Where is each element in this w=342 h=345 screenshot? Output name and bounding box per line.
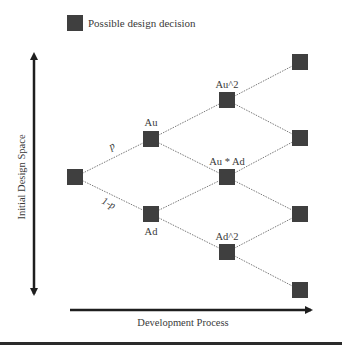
node-r1 bbox=[292, 54, 308, 70]
node-label-ad: Ad bbox=[145, 226, 159, 237]
tree-nodes bbox=[67, 54, 308, 298]
node-label-ad2: Ad^2 bbox=[215, 231, 238, 242]
vertical-axis-label: Initial Design Space bbox=[16, 134, 27, 219]
binomial-tree-diagram: Initial Design Space Development Process… bbox=[0, 0, 342, 345]
node-r4 bbox=[292, 282, 308, 298]
node-r2 bbox=[292, 130, 308, 146]
node-label-au2: Au^2 bbox=[215, 79, 238, 90]
edge-ad2-r4 bbox=[227, 252, 300, 290]
edge-auad-r3 bbox=[227, 177, 300, 214]
node-r3 bbox=[292, 206, 308, 222]
node-ad bbox=[143, 206, 159, 222]
node-root bbox=[67, 169, 83, 185]
edge-label-1-p: 1-p bbox=[100, 195, 117, 211]
tree-edges bbox=[75, 62, 300, 290]
node-auad bbox=[219, 169, 235, 185]
edge-au2-r2 bbox=[227, 100, 300, 138]
node-au2 bbox=[219, 92, 235, 108]
node-au bbox=[143, 131, 159, 147]
node-ad2 bbox=[219, 244, 235, 260]
edge-label-p: p bbox=[106, 140, 117, 153]
edge-au-au2 bbox=[151, 100, 227, 139]
horizontal-axis-label: Development Process bbox=[137, 317, 228, 328]
edge-ad-auad bbox=[151, 177, 227, 214]
node-label-au: Au bbox=[145, 117, 159, 128]
node-label-auad: Au * Ad bbox=[209, 156, 245, 167]
